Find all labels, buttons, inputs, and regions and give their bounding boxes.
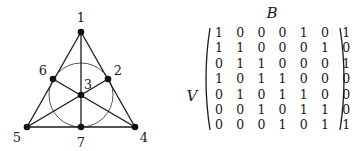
vertex-label-2: 2 — [114, 64, 122, 77]
matrix-cell-r7-c7: 1 — [342, 119, 350, 132]
matrix-cell-r3-c5: 0 — [300, 58, 308, 71]
matrix-column-label: B — [266, 4, 277, 22]
matrix-cell-r3-c6: 0 — [321, 58, 329, 71]
matrix-cell-r7-c4: 1 — [279, 119, 287, 132]
incidence-matrix: 1000101110001001100011011000010110000101… — [201, 26, 349, 132]
matrix-cell-r3-c4: 0 — [279, 58, 287, 71]
matrix-cell-r5-c5: 1 — [300, 88, 308, 101]
matrix-cell-r5-c4: 1 — [279, 88, 287, 101]
matrix-cell-r6-c7: 0 — [342, 104, 350, 117]
matrix-cell-r7-c5: 0 — [300, 119, 308, 132]
vertex-dot-4 — [132, 124, 139, 131]
vertex-label-4: 4 — [140, 131, 148, 144]
matrix-cell-r5-c7: 0 — [342, 88, 350, 101]
matrix-cell-r3-c3: 1 — [257, 58, 265, 71]
matrix-cell-r7-c3: 0 — [257, 119, 265, 132]
matrix-cell-r4-c6: 0 — [321, 73, 329, 86]
matrix-cell-r1-c3: 0 — [257, 27, 265, 40]
matrix-cell-r2-c3: 0 — [257, 42, 265, 55]
matrix-cell-r3-c1: 0 — [215, 58, 223, 71]
matrix-cell-r4-c5: 0 — [300, 73, 308, 86]
vertex-label-7: 7 — [77, 136, 85, 149]
matrix-cell-r2-c5: 0 — [300, 42, 308, 55]
matrix-cell-r6-c4: 0 — [279, 104, 287, 117]
matrix-cell-r6-c6: 1 — [321, 104, 329, 117]
matrix-cell-r6-c3: 1 — [257, 104, 265, 117]
matrix-cell-r4-c3: 1 — [257, 73, 265, 86]
matrix-cell-r3-c2: 1 — [236, 58, 244, 71]
matrix-cell-r1-c4: 0 — [279, 27, 287, 40]
matrix-cell-r7-c2: 0 — [236, 119, 244, 132]
matrix-cell-r5-c3: 0 — [257, 88, 265, 101]
matrix-cell-r4-c1: 1 — [215, 73, 223, 86]
vertex-dot-2 — [105, 76, 112, 83]
matrix-cell-r1-c5: 1 — [300, 27, 308, 40]
vertex-label-3: 3 — [84, 78, 92, 91]
matrix-cell-r2-c6: 1 — [321, 42, 329, 55]
matrix-cell-r1-c6: 0 — [321, 27, 329, 40]
vertex-label-1: 1 — [77, 11, 85, 24]
matrix-cell-r7-c6: 1 — [321, 119, 329, 132]
matrix-cell-r3-c7: 1 — [342, 58, 350, 71]
matrix-cell-r2-c2: 1 — [236, 42, 244, 55]
matrix-cell-r2-c7: 0 — [342, 42, 350, 55]
matrix-cell-r4-c4: 1 — [279, 73, 287, 86]
matrix-cell-r5-c2: 1 — [236, 88, 244, 101]
matrix-cell-r1-c2: 0 — [236, 27, 244, 40]
vertex-dot-7 — [78, 124, 85, 131]
vertex-label-5: 5 — [13, 131, 21, 144]
vertex-dot-5 — [24, 124, 31, 131]
vertex-dot-3 — [78, 92, 85, 99]
matrix-cell-r2-c4: 0 — [279, 42, 287, 55]
vertex-dot-6 — [50, 76, 57, 83]
matrix-cell-r6-c1: 0 — [215, 104, 223, 117]
matrix-cell-r4-c7: 0 — [342, 73, 350, 86]
matrix-cell-r5-c6: 0 — [321, 88, 329, 101]
matrix-cell-r1-c7: 1 — [342, 27, 350, 40]
vertex-label-6: 6 — [39, 64, 47, 77]
vertex-dot-1 — [78, 29, 85, 36]
matrix-cell-r7-c1: 0 — [215, 119, 223, 132]
fano-line-4-6 — [53, 79, 135, 127]
matrix-cell-r2-c1: 1 — [215, 42, 223, 55]
matrix-cell-r6-c5: 1 — [300, 104, 308, 117]
matrix-row-label: V — [187, 87, 198, 105]
matrix-cell-r1-c1: 1 — [215, 27, 223, 40]
fano-line-5-2 — [27, 79, 108, 127]
matrix-cell-r6-c2: 0 — [236, 104, 244, 117]
matrix-cell-r5-c1: 0 — [215, 88, 223, 101]
matrix-cell-r4-c2: 0 — [236, 73, 244, 86]
